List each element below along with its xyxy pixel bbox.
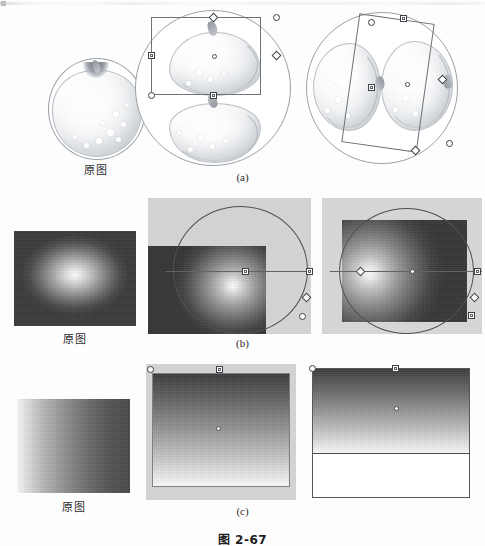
transform-handle-bottom-right[interactable]	[446, 140, 453, 147]
row-label-a: (a)	[0, 171, 485, 183]
transform-handle-bottom-center[interactable]	[210, 92, 217, 99]
gradient-center-point[interactable]	[410, 269, 415, 274]
row-label-c: (c)	[0, 505, 485, 517]
gradient-radius-handle[interactable]	[306, 268, 313, 275]
gradient-top-handle[interactable]	[392, 365, 399, 372]
apple-highlight-specks	[49, 59, 145, 159]
gradient-end-line[interactable]	[313, 453, 469, 454]
figure-row-a: 原图	[0, 0, 485, 190]
scan-noise	[313, 369, 469, 453]
panel-b-offset[interactable]	[148, 198, 311, 334]
panel-a-original[interactable]: 原图	[48, 58, 144, 158]
gradient-start-handle[interactable]	[309, 365, 316, 372]
vertical-gradient	[152, 373, 290, 487]
transform-handle-middle-left[interactable]	[148, 52, 155, 59]
gradient-center-handle[interactable]	[242, 268, 249, 275]
transform-handle-bottom-left[interactable]	[148, 92, 155, 99]
gradient-start-handle[interactable]	[147, 366, 154, 373]
transform-handle-top-right[interactable]	[273, 14, 280, 21]
gradient-center-point[interactable]	[216, 426, 221, 431]
gradient-radius-handle[interactable]	[474, 268, 481, 275]
gradient-rotate-handle[interactable]	[299, 313, 306, 320]
vertical-gradient-clipped	[313, 369, 469, 453]
figure-page: 原图	[0, 0, 485, 546]
scan-noise	[153, 374, 289, 486]
scan-noise	[17, 399, 130, 493]
scan-noise	[14, 231, 136, 326]
gradient-axis-line[interactable]	[166, 271, 311, 272]
panel-c-vertical[interactable]	[146, 364, 296, 500]
transform-center-point[interactable]	[212, 54, 217, 59]
panel-c-original[interactable]: 原图	[17, 399, 133, 499]
panel-b-original[interactable]: 原图	[14, 231, 136, 331]
gradient-circle-guide[interactable]	[173, 206, 308, 334]
gradient-top-handle[interactable]	[216, 366, 223, 373]
gradient-axis-line[interactable]	[330, 271, 482, 272]
figure-caption: 图 2-67	[0, 530, 485, 546]
transform-handle-top-left[interactable]	[368, 19, 375, 26]
radial-gradient-original	[14, 231, 136, 326]
transform-center-point[interactable]	[405, 82, 410, 87]
gradient-center-point[interactable]	[394, 406, 399, 411]
panel-b-left[interactable]	[322, 198, 482, 334]
transform-handle-top-center[interactable]	[400, 15, 407, 22]
linear-gradient-original	[17, 399, 130, 493]
transform-box-a-mirrored[interactable]	[151, 17, 261, 95]
panel-a-mirrored[interactable]	[132, 6, 292, 168]
figure-row-c: 原图 (c) 图 2-67	[0, 355, 485, 546]
figure-row-b: 原图	[0, 190, 485, 355]
panel-c-clipped[interactable]	[306, 364, 476, 500]
transform-handle-middle-left[interactable]	[368, 84, 375, 91]
gradient-rotate-handle[interactable]	[468, 312, 475, 319]
panel-a-rotated[interactable]	[300, 6, 478, 168]
row-label-b: (b)	[0, 337, 485, 349]
